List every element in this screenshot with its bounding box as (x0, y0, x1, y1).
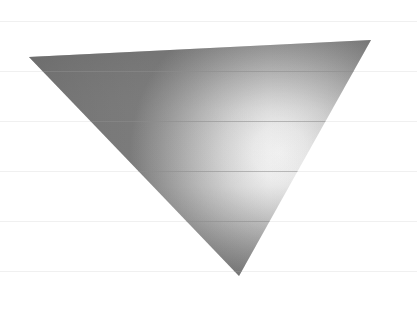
figure-canvas (0, 0, 417, 310)
figure-svg (0, 0, 417, 310)
